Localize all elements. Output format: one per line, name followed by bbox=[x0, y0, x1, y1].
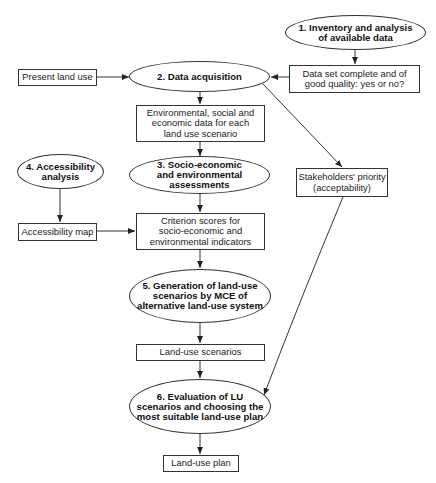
accessibility-map-label: Accessibility map bbox=[22, 227, 94, 238]
accessibility-map-box: Accessibility map bbox=[18, 223, 97, 241]
criterion-scores-label: Criterion scores for socio-economic and … bbox=[150, 216, 252, 248]
step-4-label: 4. Accessibility analysis bbox=[26, 162, 95, 182]
data-check-box: Data set complete and of good quality: y… bbox=[289, 65, 420, 93]
step-1-inventory-ellipse: 1. Inventory and analysis of available d… bbox=[285, 15, 426, 50]
step-6-evaluation-ellipse: 6. Evaluation of LU scenarios and choosi… bbox=[129, 379, 271, 434]
step-5-label: 5. Generation of land-use scenarios by M… bbox=[137, 281, 263, 311]
step-5-generation-ellipse: 5. Generation of land-use scenarios by M… bbox=[129, 269, 271, 323]
land-use-plan-box: Land-use plan bbox=[163, 455, 239, 472]
step-6-label: 6. Evaluation of LU scenarios and choosi… bbox=[137, 392, 264, 422]
env-data-box: Environmental, social and economic data … bbox=[136, 105, 265, 142]
step-3-assessment-ellipse: 3. Socio-economic and environmental asse… bbox=[129, 156, 270, 194]
criterion-scores-box: Criterion scores for socio-economic and … bbox=[136, 213, 265, 250]
step-2-data-acquisition-ellipse: 2. Data acquisition bbox=[129, 61, 270, 92]
step-1-label: 1. Inventory and analysis of available d… bbox=[298, 23, 412, 43]
data-check-label: Data set complete and of good quality: y… bbox=[302, 69, 406, 90]
env-data-label: Environmental, social and economic data … bbox=[147, 108, 254, 140]
present-land-use-label: Present land use bbox=[22, 72, 92, 83]
land-use-plan-label: Land-use plan bbox=[171, 458, 230, 469]
edge-stakeholders-to-n6 bbox=[264, 197, 343, 395]
present-land-use-box: Present land use bbox=[18, 69, 97, 86]
edge-n2-to-stakeholders bbox=[263, 84, 342, 167]
stakeholders-label: Stakeholders' priority (acceptability) bbox=[298, 172, 385, 193]
land-use-scenarios-box: Land-use scenarios bbox=[136, 344, 265, 361]
stakeholders-box: Stakeholders' priority (acceptability) bbox=[296, 168, 388, 197]
step-4-accessibility-ellipse: 4. Accessibility analysis bbox=[17, 154, 104, 189]
land-use-scenarios-label: Land-use scenarios bbox=[160, 347, 242, 358]
step-3-label: 3. Socio-economic and environmental asse… bbox=[157, 160, 242, 190]
step-2-label: 2. Data acquisition bbox=[157, 72, 242, 82]
